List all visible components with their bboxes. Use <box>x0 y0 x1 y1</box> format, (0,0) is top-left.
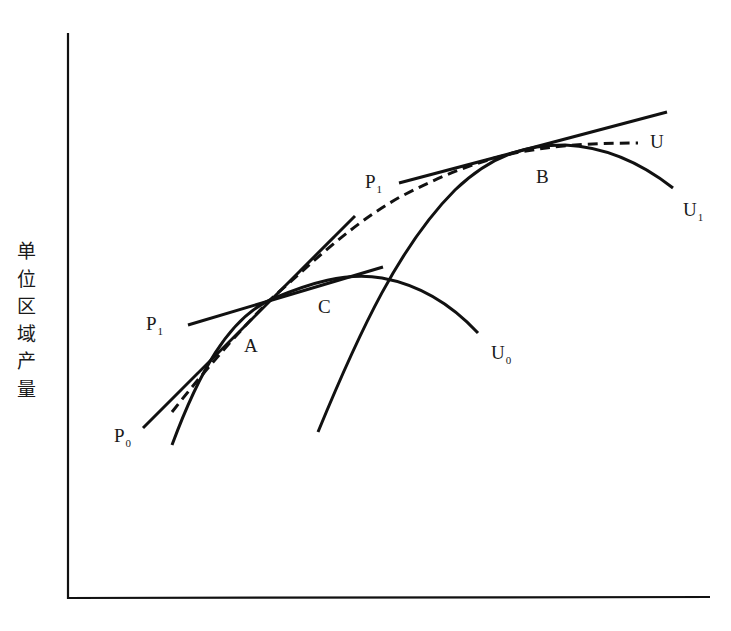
label-u0: U0 <box>491 343 511 362</box>
y-axis-label-char: 区 <box>14 293 38 321</box>
label-p1-upper-sub: 1 <box>377 183 383 195</box>
x-axis <box>67 597 710 598</box>
y-axis-label: 单 位 区 域 产 量 <box>14 238 38 403</box>
label-p1-lower-sub: 1 <box>158 325 164 337</box>
label-p1-lower: P1 <box>146 314 163 333</box>
label-p1-upper-main: P <box>365 171 376 192</box>
label-p1-lower-main: P <box>146 313 157 334</box>
label-u0-main: U <box>491 342 505 363</box>
label-u1: U1 <box>683 200 703 219</box>
label-point-a: A <box>244 336 258 355</box>
label-u0-sub: 0 <box>506 354 512 366</box>
label-u1-main: U <box>683 199 697 220</box>
y-axis-label-char: 量 <box>14 376 38 404</box>
diagram-canvas <box>0 0 731 631</box>
label-u1-sub: 1 <box>698 211 704 223</box>
curve-u-envelope <box>172 143 638 412</box>
label-p0: P0 <box>114 426 131 445</box>
y-axis-label-char: 位 <box>14 266 38 294</box>
y-axis-label-char: 产 <box>14 348 38 376</box>
y-axis-label-char: 域 <box>14 321 38 349</box>
label-p0-sub: 0 <box>126 437 132 449</box>
label-p1-upper: P1 <box>365 172 382 191</box>
y-axis-label-char: 单 <box>14 238 38 266</box>
label-u-main: U <box>650 131 664 152</box>
label-point-b: B <box>536 167 549 186</box>
label-u: U <box>650 132 664 151</box>
label-p0-main: P <box>114 425 125 446</box>
label-point-c: C <box>318 297 331 316</box>
